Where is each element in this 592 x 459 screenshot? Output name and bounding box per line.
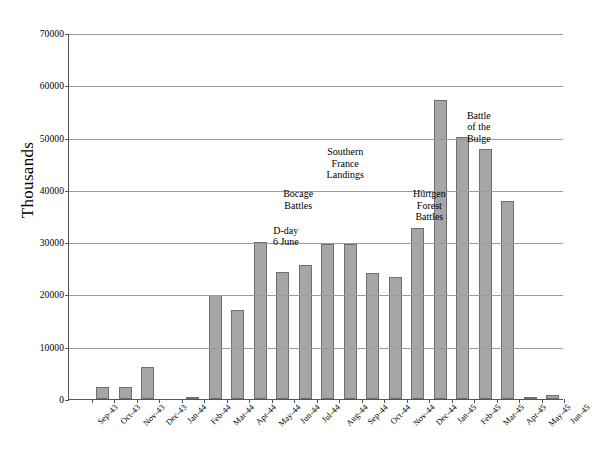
annotation-d-day: D-day 6 June [246,225,326,248]
gridline [69,34,563,35]
x-tick-label: Apr-45 [523,402,548,427]
y-tick-mark [65,86,69,87]
y-tick-label: 60000 [16,81,64,91]
x-tick-label: Mar-44 [231,402,256,427]
annotation-southern-france: Southern France Landings [305,146,385,181]
gridline [69,86,563,87]
bar-slot[interactable] [159,34,182,399]
x-tick-label: Aug-44 [344,402,370,428]
y-tick-label: 40000 [16,186,64,196]
bar-slot[interactable] [272,34,295,399]
bar[interactable] [96,387,109,399]
y-tick-label: 0 [16,395,64,405]
bar[interactable] [479,149,492,399]
bar-slot[interactable] [182,34,205,399]
x-tick-label: Jun-44 [298,402,322,426]
bar[interactable] [501,201,514,399]
bar-slot[interactable] [227,34,250,399]
annotation-battle-of-bulge: Battle of the Bulge [439,110,519,145]
x-tick-label: May-45 [546,402,573,429]
y-tick-mark [65,348,69,349]
plot-area [68,34,563,400]
y-tick-label: 50000 [16,134,64,144]
x-tick-label: Nov-43 [141,402,167,428]
bar-slot[interactable] [317,34,340,399]
x-tick-label: Nov-44 [411,402,437,428]
bar[interactable] [276,272,289,399]
x-tick-label: Oct-44 [388,402,412,426]
gridline [69,295,563,296]
bar[interactable] [254,242,267,399]
bar-slot[interactable] [519,34,542,399]
y-tick-mark [65,243,69,244]
bar[interactable] [546,395,559,399]
bar[interactable] [186,397,199,399]
x-tick-label: Dec-44 [433,402,458,427]
y-tick-mark [65,139,69,140]
x-tick-label: Jun-45 [568,402,592,426]
bar-slot[interactable] [69,34,92,399]
gridline [69,348,563,349]
y-tick-label: 30000 [16,238,64,248]
x-tick-label: Feb-45 [478,402,503,427]
y-tick-mark [65,295,69,296]
bar-slot[interactable] [339,34,362,399]
annotation-hurtgen-forest: Hürtgen Forest Battles [389,188,469,223]
x-tick-label: May-44 [276,402,303,429]
x-tick-label: Oct-43 [118,402,142,426]
bar-slot[interactable] [137,34,160,399]
bar[interactable] [366,273,379,399]
bar-slot[interactable] [114,34,137,399]
bar-slot[interactable] [497,34,520,399]
y-tick-label: 20000 [16,290,64,300]
annotation-bocage-battles: Bocage Battles [258,188,338,211]
x-tick-label: Mar-45 [501,402,526,427]
bar[interactable] [434,100,447,399]
y-tick-label: 10000 [16,343,64,353]
bar[interactable] [456,137,469,399]
bar[interactable] [411,228,424,399]
x-tick-label: Jul-44 [320,402,343,425]
bar[interactable] [231,310,244,399]
bar[interactable] [119,387,132,399]
bar[interactable] [344,244,357,399]
bar[interactable] [141,367,154,399]
bar-series [69,34,563,399]
y-axis-tick-labels: 700006000050000400003000020000100000 [10,0,64,459]
bar-slot[interactable] [249,34,272,399]
bar[interactable] [321,244,334,399]
bar-slot[interactable] [474,34,497,399]
x-tick-label: Jan-44 [185,402,209,426]
bar-slot[interactable] [542,34,565,399]
x-axis-tick-labels: Sep-43Oct-43Nov-43Dec-43Jan-44Feb-44Mar-… [68,400,563,459]
bar-slot[interactable] [204,34,227,399]
y-tick-label: 70000 [16,29,64,39]
bar-slot[interactable] [92,34,115,399]
x-tick-label: Sep-44 [365,402,390,427]
bar-slot[interactable] [362,34,385,399]
bar-slot[interactable] [294,34,317,399]
x-tick-label: Feb-44 [208,402,233,427]
y-tick-mark [65,34,69,35]
y-tick-mark [65,191,69,192]
x-tick-label: Sep-43 [95,402,120,427]
bar[interactable] [299,265,312,399]
x-tick-label: Apr-44 [253,402,278,427]
bar[interactable] [524,397,537,399]
x-tick-label: Jan-45 [455,402,479,426]
x-tick-label: Dec-43 [163,402,188,427]
